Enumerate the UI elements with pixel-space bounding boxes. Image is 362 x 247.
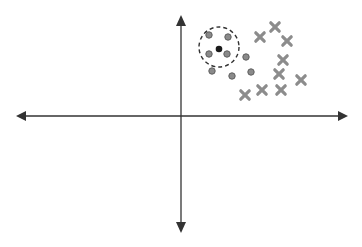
knn-diagram bbox=[0, 0, 362, 247]
cross-point-icon bbox=[277, 86, 285, 94]
circle-point-icon bbox=[229, 73, 235, 79]
circle-point-icon bbox=[206, 32, 212, 38]
cross-point-icon bbox=[283, 37, 291, 45]
cross-point-icon bbox=[256, 33, 264, 41]
circle-point-icon bbox=[224, 51, 230, 57]
x-axis-right-arrow-icon bbox=[338, 111, 348, 121]
query-point-dot-icon bbox=[216, 46, 223, 53]
circle-point-icon bbox=[225, 34, 231, 40]
y-axis-bottom-arrow-icon bbox=[176, 222, 186, 233]
circle-point-icon bbox=[248, 69, 254, 75]
cross-point-icon bbox=[271, 23, 279, 31]
class-b-points bbox=[241, 23, 305, 99]
cross-point-icon bbox=[241, 91, 249, 99]
cross-point-icon bbox=[275, 70, 283, 78]
cross-point-icon bbox=[258, 86, 266, 94]
cross-point-icon bbox=[279, 56, 287, 64]
y-axis-top-arrow-icon bbox=[176, 15, 186, 26]
cross-point-icon bbox=[297, 76, 305, 84]
axes bbox=[16, 15, 348, 233]
circle-point-icon bbox=[209, 68, 215, 74]
query-point bbox=[216, 46, 223, 53]
circle-point-icon bbox=[243, 54, 249, 60]
circle-point-icon bbox=[206, 51, 212, 57]
class-a-points bbox=[206, 32, 254, 79]
x-axis-left-arrow-icon bbox=[16, 111, 26, 121]
